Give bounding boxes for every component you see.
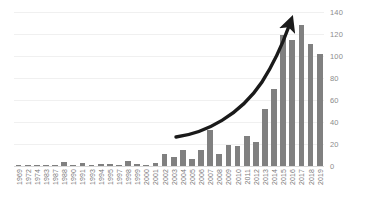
x-tick-label: 2002 [161, 169, 168, 185]
bar-2009[interactable] [226, 145, 232, 166]
bar-slot [197, 12, 206, 166]
bar-1987[interactable] [52, 165, 58, 166]
bar-1994[interactable] [98, 164, 104, 166]
bar-2008[interactable] [216, 154, 222, 166]
bar-2002[interactable] [162, 154, 168, 166]
bar-slot [78, 12, 87, 166]
bar-2005[interactable] [189, 159, 195, 166]
bar-2018[interactable] [308, 44, 314, 166]
bar-slot [14, 12, 23, 166]
bar-slot [87, 12, 96, 166]
bar-slot [105, 12, 114, 166]
x-tick-slot: 2013 [260, 168, 269, 204]
bar-1997[interactable] [116, 165, 122, 166]
bar-1969[interactable] [16, 165, 22, 166]
x-tick-label: 2013 [261, 169, 268, 185]
bar-2015[interactable] [280, 35, 286, 166]
bar-2000[interactable] [143, 165, 149, 166]
gridline-0 [14, 166, 324, 167]
plot-area [14, 12, 324, 166]
y-axis: 020406080100120140 [330, 12, 366, 166]
x-tick-label: 2001 [152, 169, 159, 185]
bar-2001[interactable] [153, 163, 159, 166]
x-tick-label: 1999 [134, 169, 141, 185]
x-tick-slot: 1991 [78, 168, 87, 204]
x-tick-slot: 2009 [224, 168, 233, 204]
bar-1990[interactable] [70, 165, 76, 166]
x-tick-slot: 2010 [233, 168, 242, 204]
bar-slot [270, 12, 279, 166]
bar-1991[interactable] [80, 163, 86, 166]
bar-2016[interactable] [289, 40, 295, 167]
bar-2011[interactable] [244, 136, 250, 166]
x-tick-slot: 1997 [114, 168, 123, 204]
y-tick-label: 0 [330, 162, 360, 171]
x-tick-slot: 2014 [270, 168, 279, 204]
bar-slot [69, 12, 78, 166]
x-tick-label: 2007 [207, 169, 214, 185]
bar-chart: 020406080100120140 196919721974198319871… [0, 0, 370, 206]
bar-2007[interactable] [207, 130, 213, 166]
x-tick-slot: 1999 [133, 168, 142, 204]
x-tick-label: 1997 [115, 169, 122, 185]
bar-slot [51, 12, 60, 166]
y-tick-label: 20 [330, 140, 360, 149]
bar-2017[interactable] [299, 25, 305, 166]
bar-1988[interactable] [61, 162, 67, 166]
x-tick-slot: 2001 [151, 168, 160, 204]
bar-1974[interactable] [34, 165, 40, 166]
bar-2003[interactable] [171, 157, 177, 166]
bar-1999[interactable] [134, 164, 140, 166]
x-tick-label: 2014 [271, 169, 278, 185]
x-tick-label: 1993 [88, 169, 95, 185]
x-tick-label: 1998 [125, 169, 132, 185]
bar-slot [124, 12, 133, 166]
bar-2013[interactable] [262, 109, 268, 166]
bar-1983[interactable] [43, 165, 49, 166]
x-tick-slot: 2016 [288, 168, 297, 204]
bar-1972[interactable] [25, 165, 31, 166]
x-tick-slot: 1994 [96, 168, 105, 204]
x-tick-label: 2012 [252, 169, 259, 185]
y-tick-label: 80 [330, 74, 360, 83]
x-tick-label: 2004 [179, 169, 186, 185]
x-tick-slot: 2008 [215, 168, 224, 204]
bar-1995[interactable] [107, 164, 113, 166]
bar-2004[interactable] [180, 150, 186, 167]
x-tick-label: 2009 [225, 169, 232, 185]
y-tick-label: 60 [330, 96, 360, 105]
x-tick-label: 2017 [298, 169, 305, 185]
x-tick-label: 1974 [33, 169, 40, 185]
bar-2006[interactable] [198, 150, 204, 167]
bar-2012[interactable] [253, 142, 259, 166]
x-tick-label: 1969 [15, 169, 22, 185]
x-tick-label: 2000 [143, 169, 150, 185]
x-tick-slot: 2012 [251, 168, 260, 204]
x-tick-slot: 1987 [51, 168, 60, 204]
x-tick-slot: 2007 [206, 168, 215, 204]
bar-2019[interactable] [317, 54, 323, 166]
bar-slot [224, 12, 233, 166]
x-tick-slot: 2011 [242, 168, 251, 204]
x-tick-slot: 2019 [315, 168, 324, 204]
x-tick-slot: 1993 [87, 168, 96, 204]
bar-slot [260, 12, 269, 166]
bar-2014[interactable] [271, 89, 277, 166]
x-tick-slot: 2018 [306, 168, 315, 204]
x-tick-label: 1995 [106, 169, 113, 185]
x-tick-label: 2003 [170, 169, 177, 185]
x-tick-slot: 2015 [279, 168, 288, 204]
bar-slot [288, 12, 297, 166]
x-tick-slot: 1998 [124, 168, 133, 204]
x-tick-slot: 2005 [187, 168, 196, 204]
x-tick-slot: 1990 [69, 168, 78, 204]
bar-slot [23, 12, 32, 166]
bar-1993[interactable] [89, 165, 95, 166]
bar-2010[interactable] [235, 146, 241, 166]
x-tick-slot: 1995 [105, 168, 114, 204]
bar-slot [178, 12, 187, 166]
x-tick-label: 1994 [97, 169, 104, 185]
bar-1998[interactable] [125, 161, 131, 167]
bar-slot [187, 12, 196, 166]
x-tick-label: 2015 [280, 169, 287, 185]
